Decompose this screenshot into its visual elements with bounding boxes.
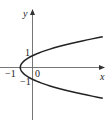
y-tick-label-neg1: −1	[20, 76, 31, 87]
origin-label: 0	[35, 68, 40, 79]
x-axis-arrow-icon	[99, 65, 105, 70]
x-tick-label-neg1: −1	[5, 68, 16, 79]
x-axis-label: x	[99, 71, 105, 82]
y-tick-label-pos1: 1	[25, 47, 30, 58]
y-axis-arrow-icon	[30, 9, 35, 15]
parabola-chart: y x −1 0 1 −1	[0, 0, 112, 124]
y-axis-label: y	[22, 8, 28, 19]
